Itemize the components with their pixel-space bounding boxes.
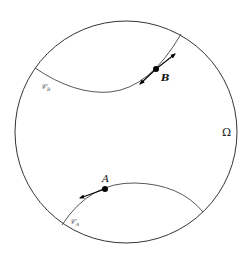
curve-c-b: [35, 34, 181, 92]
point-a: [102, 186, 108, 192]
tangent-arrow-a: [80, 189, 105, 198]
curve-c-a-label: 𝒞 A: [70, 218, 80, 227]
tangent-arrow-b-forward: [156, 54, 175, 69]
region-omega-boundary: [15, 21, 237, 243]
region-omega-label: Ω: [222, 126, 231, 139]
point-b-label: B: [160, 72, 169, 83]
tangent-arrow-b-backward: [140, 69, 156, 84]
curve-c-b-label: 𝒞 B: [41, 83, 51, 92]
diagram-canvas: Ω 𝒞 B B 𝒞 A A: [0, 0, 246, 266]
curve-c-a: [62, 183, 203, 225]
svg-text:B: B: [46, 87, 51, 92]
point-b: [153, 66, 159, 72]
svg-text:A: A: [75, 222, 80, 227]
point-a-label: A: [101, 173, 109, 184]
